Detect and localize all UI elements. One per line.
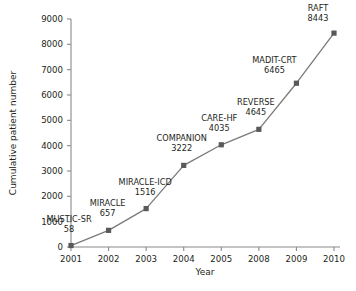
- y-tick-label: 7000: [41, 65, 63, 75]
- y-tick-label: 9000: [41, 14, 63, 24]
- x-axis-tick-labels: 20012002200320042005200820092010: [60, 254, 345, 264]
- data-point-name-label: REVERSE: [237, 97, 275, 107]
- y-tick-label: 6000: [41, 90, 63, 100]
- data-point-name-label: MUSTIC-SR: [46, 214, 92, 224]
- data-point-value-label: 1516: [135, 187, 156, 197]
- data-point-value-label: 8443: [308, 13, 329, 23]
- data-point-value-label: 657: [100, 208, 116, 218]
- y-axis-title: Cumulative patient number: [8, 71, 18, 196]
- data-point-name-label: COMPANION: [157, 133, 207, 143]
- y-tick-label: 5000: [41, 115, 63, 125]
- x-tick-label: 2009: [285, 254, 307, 264]
- x-tick-label: 2005: [210, 254, 232, 264]
- y-tick-label: 2000: [41, 191, 63, 201]
- data-point-name-label: MIRACLE-ICD: [119, 177, 172, 187]
- cumulative-patient-number-chart: 0100020003000400050006000700080009000 20…: [0, 0, 356, 291]
- data-point-name-label: CARE-HF: [201, 113, 237, 123]
- data-point-annotations: MUSTIC-SR58MIRACLE657MIRACLE-ICD1516COMP…: [46, 3, 329, 233]
- data-point-value-label: 4035: [209, 123, 230, 133]
- data-point-marker: [144, 206, 149, 211]
- x-axis-tick-marks: [71, 247, 334, 251]
- y-tick-label: 0: [58, 242, 63, 252]
- x-tick-label: 2010: [323, 254, 345, 264]
- data-point-marker: [181, 163, 186, 168]
- data-point-name-label: MADIT-CRT: [252, 55, 297, 65]
- data-point-value-label: 3222: [171, 143, 192, 153]
- data-point-marker: [331, 31, 336, 36]
- y-tick-label: 4000: [41, 141, 63, 151]
- x-tick-label: 2003: [135, 254, 157, 264]
- y-tick-label: 3000: [41, 166, 63, 176]
- x-tick-label: 2001: [60, 254, 82, 264]
- data-point-marker: [294, 81, 299, 86]
- x-tick-label: 2008: [248, 254, 270, 264]
- data-point-marker: [68, 243, 73, 248]
- x-axis-title: Year: [194, 267, 214, 277]
- x-tick-label: 2002: [98, 254, 120, 264]
- y-tick-label: 8000: [41, 39, 63, 49]
- data-point-name-label: RAFT: [308, 3, 330, 13]
- data-point-marker: [219, 142, 224, 147]
- data-point-name-label: MIRACLE: [90, 198, 126, 208]
- chart-canvas: 0100020003000400050006000700080009000 20…: [0, 0, 356, 291]
- data-point-value-label: 6465: [264, 65, 285, 75]
- data-point-value-label: 4645: [245, 107, 266, 117]
- data-point-marker: [256, 127, 261, 132]
- data-point-marker: [106, 228, 111, 233]
- x-tick-label: 2004: [173, 254, 195, 264]
- data-point-value-label: 58: [64, 224, 74, 234]
